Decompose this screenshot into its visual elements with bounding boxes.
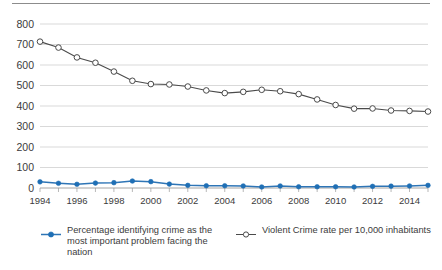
y-tick-label: 600 [16, 59, 34, 71]
violent-crime-line-chart: 0100200300400500600700800 19941996199820… [0, 0, 442, 270]
y-tick-label: 300 [16, 120, 34, 132]
x-tick-label: 1996 [66, 195, 87, 206]
data-point-marker [56, 45, 62, 51]
x-tick-label: 2008 [288, 195, 309, 206]
data-point-marker [167, 182, 172, 187]
chart-legend: Percentage identifying crime as the most… [0, 222, 442, 270]
data-point-marker [203, 88, 209, 94]
data-point-marker [240, 89, 246, 95]
data-point-marker [222, 183, 227, 188]
x-tick-label: 2014 [399, 195, 420, 206]
y-tick-label: 0 [28, 182, 34, 194]
data-point-marker [111, 69, 117, 75]
data-point-marker [167, 82, 173, 88]
legend-item-percentage-crime-important[interactable]: Percentage identifying crime as the most… [40, 225, 218, 259]
data-point-marker [130, 78, 136, 84]
data-point-marker [333, 184, 338, 189]
data-point-marker [388, 108, 394, 114]
x-tick-label: 2006 [251, 195, 272, 206]
x-tick-label: 2004 [214, 195, 235, 206]
series-line [40, 181, 428, 187]
data-point-marker [315, 184, 320, 189]
x-tick-label: 2012 [362, 195, 383, 206]
data-point-marker [93, 60, 99, 66]
data-point-marker [222, 90, 228, 96]
data-point-marker [93, 181, 98, 186]
data-point-marker [277, 88, 283, 94]
y-tick-label: 400 [16, 100, 34, 112]
data-point-marker [75, 182, 80, 187]
data-point-marker [407, 184, 412, 189]
data-point-marker [130, 179, 135, 184]
x-tick-label: 2000 [140, 195, 161, 206]
open-circle-marker-icon [235, 226, 257, 237]
data-point-marker [296, 184, 301, 189]
x-axis-tick-marks [40, 188, 428, 192]
data-point-marker [351, 106, 357, 112]
data-point-marker [38, 180, 43, 185]
series-violent-crime-rate [37, 39, 431, 114]
x-axis-tick-labels: 1994199619982000200220042006200820102012… [29, 195, 420, 206]
data-point-marker [314, 97, 320, 103]
gridlines-group [40, 24, 428, 188]
data-point-marker [56, 181, 61, 186]
data-point-marker [37, 39, 43, 45]
series-line [40, 42, 428, 112]
chart-plot-area: 0100200300400500600700800 19941996199820… [0, 0, 442, 222]
data-point-marker [259, 87, 265, 93]
data-point-marker [204, 183, 209, 188]
data-point-marker [425, 109, 431, 115]
data-point-marker [148, 81, 154, 87]
data-point-marker [149, 179, 154, 184]
x-tick-label: 1994 [29, 195, 50, 206]
data-point-marker [370, 106, 376, 112]
data-point-marker [333, 102, 339, 108]
y-axis-tick-labels: 0100200300400500600700800 [16, 18, 34, 194]
data-point-marker [186, 183, 191, 188]
data-point-marker [426, 183, 431, 188]
data-point-marker [185, 84, 191, 90]
filled-circle-marker-icon [40, 226, 62, 237]
data-point-marker [241, 184, 246, 189]
data-point-marker [296, 91, 302, 97]
x-tick-label: 2002 [177, 195, 198, 206]
legend-item-violent-crime-rate[interactable]: Violent Crime rate per 10,000 inhabitant… [235, 225, 440, 237]
legend-label-violent-crime-rate: Violent Crime rate per 10,000 inhabitant… [257, 225, 431, 236]
data-point-marker [112, 180, 117, 185]
data-point-marker [370, 184, 375, 189]
legend-label-percentage-crime-important: Percentage identifying crime as the most… [62, 225, 218, 259]
data-point-marker [259, 185, 264, 190]
data-point-marker [74, 55, 80, 61]
data-point-marker [352, 185, 357, 190]
data-point-marker [407, 108, 413, 114]
y-tick-label: 100 [16, 161, 34, 173]
x-tick-label: 1998 [103, 195, 124, 206]
y-tick-label: 500 [16, 79, 34, 91]
data-point-marker [278, 184, 283, 189]
y-tick-label: 800 [16, 18, 34, 30]
x-tick-label: 2010 [325, 195, 346, 206]
y-tick-label: 700 [16, 38, 34, 50]
data-point-marker [389, 184, 394, 189]
y-tick-label: 200 [16, 141, 34, 153]
